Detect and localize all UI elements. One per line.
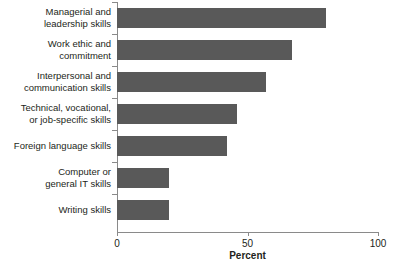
- category-label-line: Managerial and: [46, 6, 112, 18]
- category-axis-tick: [112, 194, 117, 195]
- value-axis-tick-label: 100: [370, 238, 387, 250]
- value-axis-tick: [378, 232, 379, 236]
- bar: [117, 8, 326, 28]
- category-label: Managerial andleadership skills: [0, 2, 111, 34]
- category-axis-tick: [112, 34, 117, 35]
- value-axis-tick-label: 50: [242, 238, 253, 250]
- category-axis-tick: [112, 98, 117, 99]
- value-axis-tick: [248, 232, 249, 236]
- category-label-line: or job-specific skills: [29, 114, 111, 126]
- bar: [117, 168, 169, 188]
- category-label-line: Writing skills: [58, 204, 111, 216]
- bar-row: Technical, vocational,or job-specific sk…: [117, 98, 378, 130]
- plot-area: Managerial andleadership skillsWork ethi…: [117, 0, 378, 232]
- category-label-line: commitment: [59, 50, 111, 62]
- x-axis-title: Percent: [117, 250, 378, 261]
- value-axis-tick-label: 0: [114, 238, 120, 250]
- category-axis-tick: [112, 130, 117, 131]
- category-label: Interpersonal andcommunication skills: [0, 66, 111, 98]
- bar: [117, 72, 266, 92]
- category-label-line: Interpersonal and: [37, 70, 111, 82]
- bar-row: Writing skills: [117, 194, 378, 226]
- category-axis-tick: [112, 2, 117, 3]
- value-axis-tick: [117, 232, 118, 236]
- category-label-line: leadership skills: [44, 18, 111, 30]
- bar-row: Interpersonal andcommunication skills: [117, 66, 378, 98]
- category-label-line: Work ethic and: [48, 38, 111, 50]
- category-label: Writing skills: [0, 194, 111, 226]
- category-label: Technical, vocational,or job-specific sk…: [0, 98, 111, 130]
- bar: [117, 104, 237, 124]
- category-label-line: general IT skills: [45, 178, 111, 190]
- bar: [117, 40, 292, 60]
- category-label-line: Foreign language skills: [14, 140, 111, 152]
- category-label-line: Technical, vocational,: [21, 102, 111, 114]
- category-label: Work ethic andcommitment: [0, 34, 111, 66]
- bar-row: Foreign language skills: [117, 130, 378, 162]
- category-label: Computer orgeneral IT skills: [0, 162, 111, 194]
- category-label: Foreign language skills: [0, 130, 111, 162]
- bar-chart: Managerial andleadership skillsWork ethi…: [0, 0, 396, 265]
- bar-row: Computer orgeneral IT skills: [117, 162, 378, 194]
- category-axis-tick: [112, 162, 117, 163]
- category-axis-tick: [112, 66, 117, 67]
- bar-row: Work ethic andcommitment: [117, 34, 378, 66]
- bar: [117, 136, 227, 156]
- category-label-line: Computer or: [58, 166, 111, 178]
- bar-row: Managerial andleadership skills: [117, 2, 378, 34]
- category-label-line: communication skills: [24, 82, 111, 94]
- bar: [117, 200, 169, 220]
